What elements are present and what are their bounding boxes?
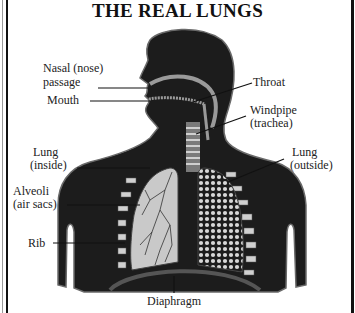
trachea — [186, 122, 200, 172]
label-diaphragm: Diaphragm — [147, 295, 201, 308]
label-windpipe-line2: (trachea) — [250, 117, 293, 130]
label-lung-outside-line2: (outside) — [290, 159, 333, 172]
label-rib: Rib — [28, 237, 45, 250]
label-throat: Throat — [253, 76, 285, 89]
label-alveoli-line2: (air sacs) — [13, 198, 57, 211]
label-mouth: Mouth — [47, 94, 79, 107]
label-lung-inside-line2: (inside) — [30, 159, 67, 172]
label-nasal-passage-line1: Nasal (nose) — [43, 62, 103, 75]
label-nasal-passage-line2: passage — [43, 76, 80, 89]
